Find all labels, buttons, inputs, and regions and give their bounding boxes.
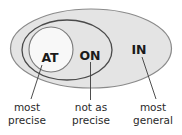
prepositions-venn-diagram: AT ON IN most precise not as precise mos… — [0, 0, 182, 135]
caption-on-line2: precise — [72, 114, 110, 126]
set-label-on: ON — [79, 48, 100, 63]
caption-in-line1: most — [140, 101, 166, 113]
caption-on-line1: not as — [75, 101, 107, 113]
caption-at-line2: precise — [8, 114, 46, 126]
set-label-in: IN — [131, 42, 146, 57]
caption-at-line1: most — [14, 101, 40, 113]
set-label-at: AT — [41, 50, 59, 65]
caption-in-line2: general — [133, 114, 173, 126]
